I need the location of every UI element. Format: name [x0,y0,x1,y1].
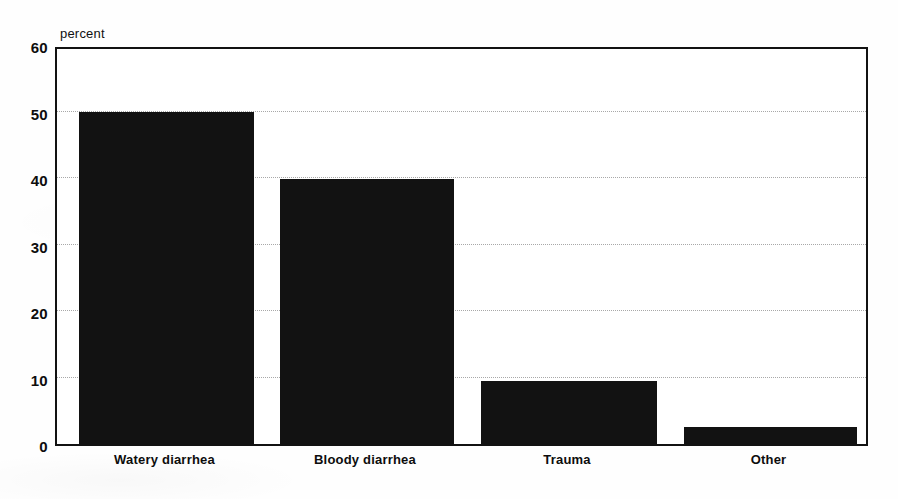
bar [280,179,454,444]
x-axis-tick-labels: Watery diarrheaBloody diarrheaTraumaOthe… [55,452,868,478]
x-tick-label: Watery diarrhea [114,452,215,467]
y-tick-label-60: 60 [4,39,48,56]
x-tick-label: Bloody diarrhea [314,452,416,467]
x-tick-label: Other [751,452,787,467]
bar-chart: percent 0102030405060 Watery diarrheaBlo… [0,0,898,499]
y-axis-tick-labels: 0102030405060 [0,47,48,446]
y-tick-label-20: 20 [4,305,48,322]
y-tick-label-30: 30 [4,238,48,255]
bar [684,427,857,444]
bar [79,112,254,445]
x-tick-label: Trauma [543,452,590,467]
plot-area [55,47,868,446]
y-tick-label-10: 10 [4,371,48,388]
y-tick-label-50: 50 [4,105,48,122]
y-tick-label-40: 40 [4,172,48,189]
bar [481,381,657,444]
y-tick-label-0: 0 [4,438,48,455]
y-axis-unit-label: percent [60,26,105,42]
